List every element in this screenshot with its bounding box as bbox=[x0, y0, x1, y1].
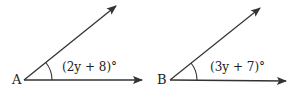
angle-diagram: A (2y + 8)° B (3y + 7)° bbox=[0, 0, 296, 93]
ray-b-bottom bbox=[170, 80, 286, 81]
angle-a: A (2y + 8)° bbox=[11, 6, 142, 87]
angle-arc-a bbox=[46, 63, 52, 81]
angle-measure-b: (3y + 7)° bbox=[210, 60, 265, 74]
angle-b: B (3y + 7)° bbox=[157, 8, 286, 87]
angle-arc-b bbox=[191, 63, 197, 80]
vertex-label-b: B bbox=[157, 72, 167, 87]
vertex-label-a: A bbox=[11, 72, 22, 87]
angle-measure-a: (2y + 8)° bbox=[62, 60, 117, 74]
